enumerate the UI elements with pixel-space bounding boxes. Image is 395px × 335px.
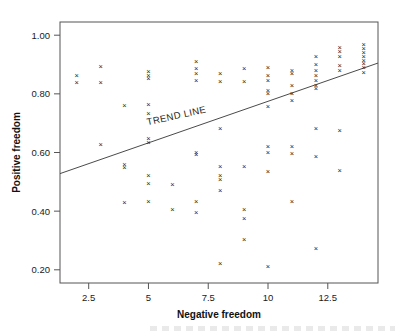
data-point-marker: × [361,68,365,77]
data-point-marker: × [314,52,318,61]
data-point-marker: × [242,214,246,223]
data-point-marker: × [194,197,198,206]
data-point-marker: × [266,167,270,176]
data-point-marker: × [242,235,246,244]
x-axis-tick-label: 2.5 [82,292,95,303]
data-point-marker: × [218,175,222,184]
data-point-marker: × [266,102,270,111]
y-axis-tick-label: 1.00 [32,30,51,41]
data-point-marker: × [146,179,150,188]
data-point-marker: × [218,186,222,195]
data-point-marker: × [218,162,222,171]
data-point-marker: × [75,78,79,87]
data-point-marker: × [290,69,294,78]
data-point-marker: × [170,180,174,189]
data-point-marker: × [242,77,246,86]
data-point-marker: × [314,124,318,133]
y-axis-tick-label: 0.20 [32,264,51,275]
scatter-plot-figure: 0.200.400.600.801.002.557.51012.5Negativ… [0,0,395,335]
x-axis-tick-label: 7.5 [202,292,215,303]
data-point-marker: × [314,244,318,253]
data-point-marker: × [266,262,270,271]
y-axis-tick-label: 0.40 [32,206,51,217]
data-point-marker: × [146,171,150,180]
data-point-marker: × [266,148,270,157]
data-point-marker: × [290,149,294,158]
x-axis-tick-label: 5 [146,292,151,303]
data-point-marker: × [218,259,222,268]
data-point-marker: × [170,205,174,214]
data-point-marker: × [122,163,126,172]
data-point-marker: × [266,76,270,85]
y-axis-title: Positive freedom [11,112,22,193]
data-point-marker: × [290,197,294,206]
data-point-marker: × [122,198,126,207]
data-point-marker: × [146,138,150,147]
data-point-marker: × [338,66,342,75]
data-point-marker: × [218,77,222,86]
data-point-marker: × [290,96,294,105]
x-axis-tick-label: 12.5 [319,292,338,303]
y-axis-tick-label: 0.80 [32,88,51,99]
trend-line-label: TREND LINE [146,103,207,127]
x-axis-tick-label: 10 [263,292,274,303]
chart-canvas: 0.200.400.600.801.002.557.51012.5Negativ… [0,0,395,335]
data-point-marker: × [194,150,198,159]
data-point-marker: × [146,197,150,206]
plot-frame [60,22,378,283]
data-point-marker: × [98,140,102,149]
data-point-marker: × [338,52,342,61]
data-point-marker: × [266,89,270,98]
data-point-marker: × [218,124,222,133]
data-point-marker: × [338,166,342,175]
data-point-marker: × [122,101,126,110]
data-point-marker: × [314,84,318,93]
data-point-marker: × [242,162,246,171]
data-point-marker: × [242,64,246,73]
page-scan-artifact [150,326,395,331]
y-axis-tick-label: 0.60 [32,147,51,158]
data-point-marker: × [98,78,102,87]
data-point-marker: × [194,76,198,85]
x-axis-title: Negative freedom [177,309,261,320]
data-point-marker: × [314,152,318,161]
data-point-marker: × [194,208,198,217]
data-point-marker: × [338,126,342,135]
data-point-marker: × [146,74,150,83]
data-point-marker: × [98,62,102,71]
